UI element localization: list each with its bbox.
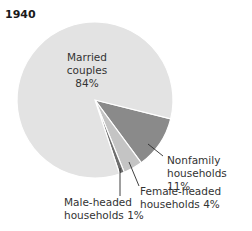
label-female-line2: households 4% <box>140 198 221 211</box>
label-married-line3: 84% <box>52 77 122 90</box>
label-married-line2: couples <box>52 64 122 77</box>
label-male-line1: Male-headed <box>64 196 144 209</box>
label-nonfamily-line1: Nonfamily <box>167 154 252 167</box>
label-male-line2: households 1% <box>64 209 144 222</box>
label-male-headed: Male-headed households 1% <box>64 196 144 222</box>
label-female-line1: Female-headed <box>140 185 221 198</box>
pie-slices <box>17 22 173 178</box>
label-married-line1: Married <box>52 51 122 64</box>
label-female-headed: Female-headed households 4% <box>140 185 221 211</box>
label-married-couples: Married couples 84% <box>52 51 122 90</box>
